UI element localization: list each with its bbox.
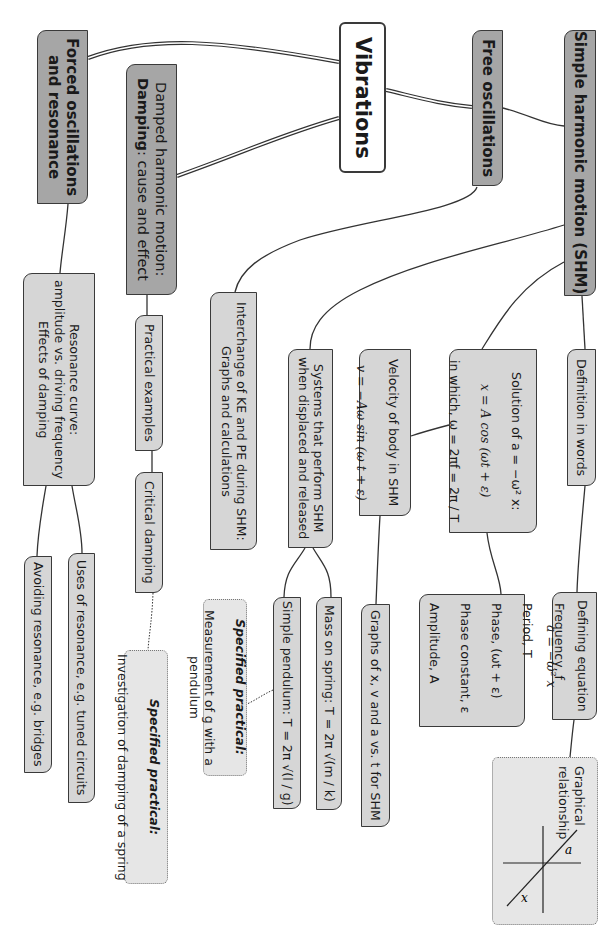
link-critical-practical [148, 593, 153, 650]
node-shm[interactable]: Simple harmonic motion (SHM) [564, 30, 596, 296]
node-vibrations-label: Vibrations [349, 37, 375, 159]
node-mass-spring-label: Mass on spring: T = 2π √(m / k) [321, 605, 337, 802]
node-systems-label: Systems that perform SHM when displaced … [295, 357, 326, 539]
node-practical-examples-label: Practical examples [141, 324, 157, 442]
link-free-interchange [235, 187, 477, 292]
node-avoiding-label: Avoiding resonance, e.g. bridges [30, 562, 46, 766]
node-forced-label: Forced oscillations and resonance [44, 38, 82, 196]
node-definition-in-words[interactable]: Definition in words [567, 349, 596, 486]
node-practical-spring[interactable]: Specified practical: Investigation of da… [124, 650, 168, 884]
term-amplitude: Amplitude, A [427, 603, 442, 684]
node-uses-of-resonance[interactable]: Uses of resonance, e.g. tuned circuits [68, 553, 95, 803]
practical-g-text: Measurement of g with a pendulum [187, 610, 218, 766]
link-defining-graphical [570, 720, 574, 757]
term-period: Period, T [520, 603, 535, 658]
node-interchange-label: Interchange of KE and PE during SHM: Gra… [218, 302, 249, 541]
node-free-oscillations[interactable]: Free oscillations [472, 30, 503, 186]
node-terms-label: Frequency, f Period, T Phase, (ωt + ε) P… [426, 603, 582, 713]
solution-line3: in which, ω = 2πf = 2π / T [447, 360, 462, 522]
link-forced-resonance [60, 204, 68, 273]
node-solution[interactable]: Solution of a = −ω² x: x = A cos (ωt + ε… [449, 349, 537, 533]
node-practical-examples[interactable]: Practical examples [135, 315, 163, 451]
velocity-line1: Velocity of body in SHM [386, 359, 401, 506]
node-resonance-curve[interactable]: Resonance curve: amplitude vs. driving f… [23, 273, 95, 486]
node-uses-label: Uses of resonance, e.g. tuned circuits [74, 560, 90, 795]
node-graphs-label: Graphs of x, v and a vs. t for SHM [368, 610, 384, 821]
link-solution-velocity [411, 425, 449, 436]
node-interchange-ke-pe[interactable]: Interchange of KE and PE during SHM: Gra… [210, 292, 257, 550]
node-damped-label: Damped harmonic motion:Damping: cause an… [133, 78, 169, 281]
node-forced-oscillations[interactable]: Forced oscillations and resonance [37, 30, 88, 204]
node-velocity[interactable]: Velocity of body in SHM v = −Aω sin (ω t… [359, 349, 411, 516]
axis-x-label: x [521, 891, 528, 905]
term-phase: Phase, (ωt + ε) [489, 603, 504, 699]
practical-g-title: Specified practical: [233, 619, 248, 755]
velocity-line2: v = −Aω sin (ω t + ε) [354, 365, 369, 501]
node-practical-spring-label: Specified practical: Investigation of da… [115, 654, 178, 881]
a-vs-x-graph-icon: a x [503, 818, 583, 918]
node-avoiding-resonance[interactable]: Avoiding resonance, e.g. bridges [24, 556, 52, 773]
node-resonance-label: Resonance curve: amplitude vs. driving f… [36, 280, 83, 479]
node-pendulum-label: Simple pendulum: T = 2π √(l / g) [279, 601, 295, 806]
link-vibrations-free [386, 90, 472, 107]
node-critical-label: Critical damping [141, 481, 157, 584]
term-phase-constant: Phase constant, ε [458, 603, 473, 713]
link-velocity-graphs [376, 516, 380, 604]
link-resonance-avoiding [37, 486, 46, 556]
axis-a-label: a [565, 843, 572, 857]
node-practical-g[interactable]: Specified practical: Measurement of g wi… [203, 599, 247, 776]
node-velocity-label: Velocity of body in SHM v = −Aω sin (ω t… [354, 359, 417, 506]
node-terms[interactable]: Frequency, f Period, T Phase, (ωt + ε) P… [419, 594, 525, 727]
link-shm-systems [310, 225, 564, 349]
node-damped-bold: Damping [135, 78, 151, 151]
node-free-oscillations-label: Free oscillations [478, 39, 497, 177]
node-graphs-xva[interactable]: Graphs of x, v and a vs. t for SHM [361, 604, 390, 827]
node-simple-pendulum[interactable]: Simple pendulum: T = 2π √(l / g) [273, 597, 301, 809]
link-systems-mass [313, 548, 331, 597]
node-damped-rest: : cause and effect [135, 151, 151, 281]
link-shm-solution [482, 262, 564, 349]
node-solution-label: Solution of a = −ω² x: x = A cos (ωt + ε… [446, 360, 540, 522]
node-graphical-relationship[interactable]: Graphical relationship a x [492, 757, 598, 925]
term-frequency: Frequency, f [552, 603, 567, 680]
link-solution-terms [487, 533, 501, 594]
node-damped-harmonic-motion[interactable]: Damped harmonic motion:Damping: cause an… [126, 64, 177, 295]
node-definition-label: Definition in words [574, 359, 590, 476]
link-vibrations-forced [88, 43, 339, 62]
link-resonance-uses [72, 486, 82, 553]
solution-line1: Solution of a = −ω² x: [509, 372, 524, 511]
node-practical-g-label: Specified practical: Measurement of g wi… [186, 600, 264, 775]
link-free-shm [503, 108, 564, 126]
solution-line2: x = A cos (ωt + ε) [478, 384, 493, 497]
link-shm-definition [582, 296, 585, 349]
node-systems-shm[interactable]: Systems that perform SHM when displaced … [288, 349, 333, 548]
node-shm-label: Simple harmonic motion (SHM) [571, 31, 590, 294]
node-damped-line1: Damped harmonic motion: [153, 82, 169, 276]
practical-spring-title: Specified practical: [147, 699, 162, 835]
practical-spring-text: Investigation of damping of a spring [115, 654, 130, 881]
node-critical-damping[interactable]: Critical damping [135, 472, 163, 593]
link-definition-defining [577, 486, 585, 592]
link-systems-pendulum [284, 548, 305, 597]
link-vibrations-damped [177, 118, 339, 176]
node-mass-on-spring[interactable]: Mass on spring: T = 2π √(m / k) [316, 597, 342, 810]
node-vibrations[interactable]: Vibrations [339, 22, 386, 173]
